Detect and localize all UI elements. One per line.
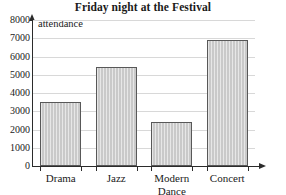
x-axis-tick [192, 167, 193, 171]
x-axis-tick-label: Modern Dance [144, 172, 200, 195]
y-axis-tick-label: 6000 [10, 52, 30, 62]
x-axis-tick [248, 167, 249, 171]
plot-area [33, 20, 255, 166]
x-axis-arrow-icon [259, 163, 266, 169]
bar-chart: Friday night at the Festival 01000200030… [0, 0, 286, 195]
x-axis-tick [151, 167, 152, 171]
x-axis-tick [207, 167, 208, 171]
y-axis-tick-label: 8000 [10, 15, 30, 25]
y-axis-tick-label: 4000 [10, 88, 30, 98]
x-axis-tick-label: Jazz [89, 172, 145, 185]
y-axis-tick-label: 1000 [10, 143, 30, 153]
bar [96, 67, 137, 166]
x-axis-tick-label: Concert [200, 172, 256, 185]
x-axis-tick [96, 167, 97, 171]
x-axis-tick [137, 167, 138, 171]
bar [207, 40, 248, 166]
chart-title: Friday night at the Festival [0, 1, 286, 13]
y-axis-tick-label: 5000 [10, 70, 30, 80]
x-axis-tick [40, 167, 41, 171]
y-axis-tick-label: 2000 [10, 125, 30, 135]
x-axis-tick-labels: DramaJazzModern DanceConcert [33, 167, 255, 195]
y-axis-tick-label: 0 [25, 161, 30, 171]
x-axis-tick-label: Drama [33, 172, 89, 185]
x-axis-tick [81, 167, 82, 171]
y-axis-tick-label: 7000 [10, 33, 30, 43]
bar [151, 122, 192, 166]
bar [40, 102, 81, 166]
gridline [33, 20, 255, 21]
y-axis-tick-label: 3000 [10, 106, 30, 116]
y-axis-tick-labels: 010002000300040005000600070008000 [0, 0, 30, 195]
